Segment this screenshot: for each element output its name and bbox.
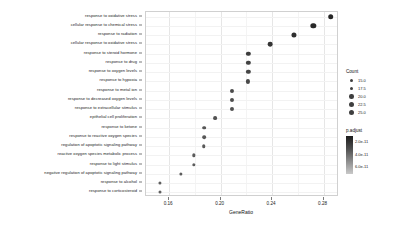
colorbar-tick-label: 6.0e-11 (355, 165, 368, 169)
y-axis-labels: response to oxidative stresscellular res… (0, 11, 142, 196)
y-axis-label: response to ketone (101, 125, 137, 129)
y-axis-label: response to alcohol (101, 180, 137, 184)
y-axis-label: response to drug (106, 60, 137, 64)
y-axis-label: response to radiation (98, 32, 137, 36)
y-axis-tick (139, 172, 142, 173)
gridline-horizontal (146, 109, 337, 110)
y-axis-tick (139, 154, 142, 155)
data-point (230, 89, 234, 93)
y-axis-tick (139, 135, 142, 136)
x-axis-tick (323, 197, 324, 200)
data-point (202, 135, 206, 139)
colorbar-gradient (346, 136, 353, 174)
gridline-horizontal (146, 44, 337, 45)
y-axis-tick (139, 34, 142, 35)
legend-count-swatch (346, 94, 357, 98)
y-axis-label: response to hypoxia (100, 78, 137, 82)
gridline-horizontal (146, 35, 337, 36)
y-axis-tick (139, 61, 142, 62)
colorbar-ticks: 2.0e-114.0e-116.0e-11 (355, 136, 385, 174)
legend-count-title: Count (346, 70, 396, 75)
legend-count-swatch (346, 79, 357, 82)
y-axis-tick (139, 145, 142, 146)
gridline-horizontal (146, 72, 337, 73)
y-axis-label: response to oxidative stress (85, 14, 137, 18)
legend-count-dot (350, 87, 354, 91)
gridline-horizontal (146, 137, 337, 138)
gridline-vertical-major (221, 12, 222, 195)
legend-count-swatch (346, 110, 357, 116)
data-point (158, 191, 161, 194)
gridline-horizontal (146, 128, 337, 129)
y-axis-tick (139, 182, 142, 183)
x-axis-tick-label: 0.16 (164, 201, 173, 206)
data-point (158, 182, 161, 185)
gridline-horizontal (146, 81, 337, 82)
gridline-vertical-major (169, 12, 170, 195)
gridline-horizontal (146, 26, 337, 27)
dotplot-figure: response to oxidative stresscellular res… (0, 0, 397, 240)
y-axis-tick (139, 163, 142, 164)
y-axis-tick (139, 15, 142, 16)
x-axis-title: GeneRatio (229, 209, 253, 215)
x-axis-tick-label: 0.24 (267, 201, 276, 206)
data-point (230, 98, 234, 102)
y-axis-tick (139, 24, 142, 25)
data-point (328, 14, 334, 20)
y-axis-tick (139, 98, 142, 99)
legend-count-dot (349, 94, 353, 98)
data-point (268, 42, 273, 47)
gridline-horizontal (146, 63, 337, 64)
legend-count-item: 25.0 (346, 109, 396, 117)
legend-padjust: p.adjust 2.0e-114.0e-116.0e-11 (346, 129, 396, 174)
y-axis-label: response to reactive oxygen species (69, 134, 137, 138)
plot-panel (145, 11, 338, 196)
legend-count-label: 25.0 (358, 111, 366, 115)
gridline-horizontal (146, 118, 337, 119)
x-axis-tick (220, 197, 221, 200)
y-axis-label: cellular response to oxidative stress (71, 41, 137, 45)
gridline-vertical-major (272, 12, 273, 195)
y-axis-label: response to steroid hormone (84, 51, 137, 55)
legend-count-item: 20.0 (346, 93, 396, 101)
gridline-horizontal (146, 146, 337, 147)
data-point (311, 23, 316, 28)
legend-count-label: 20.0 (358, 95, 366, 99)
legend-count-label: 22.5 (358, 103, 366, 107)
legend-count-dot (349, 102, 354, 107)
gridline-vertical-minor (298, 12, 299, 195)
y-axis-tick (139, 126, 142, 127)
x-axis-tick-label: 0.28 (318, 201, 327, 206)
colorbar-wrap: 2.0e-114.0e-116.0e-11 (346, 136, 396, 174)
gridline-horizontal (146, 100, 337, 101)
gridline-horizontal (146, 54, 337, 55)
gridline-horizontal (146, 174, 337, 175)
y-axis-tick (139, 117, 142, 118)
x-axis-tick (168, 197, 169, 200)
y-axis-label: regulation of apoptotic signaling pathwa… (61, 143, 137, 147)
y-axis-label: response to light stimulus (90, 162, 137, 166)
data-point (230, 107, 234, 111)
gridline-vertical-minor (246, 12, 247, 195)
gridline-horizontal (146, 165, 337, 166)
gridline-vertical-major (324, 12, 325, 195)
y-axis-tick (139, 89, 142, 90)
legend-count-swatch (346, 87, 357, 91)
x-axis-tick-label: 0.20 (215, 201, 224, 206)
y-axis-label: cellular response to chemical stress (71, 23, 137, 27)
y-axis-tick (139, 52, 142, 53)
data-point (246, 51, 250, 55)
legend-padjust-title: p.adjust (346, 129, 396, 134)
gridline-vertical-minor (195, 12, 196, 195)
data-point (179, 172, 182, 175)
data-point (246, 70, 250, 74)
legend-count-label: 17.5 (358, 87, 366, 91)
y-axis-tick (139, 71, 142, 72)
data-point (291, 33, 296, 38)
y-axis-label: response to extracellular stimulus (75, 106, 137, 110)
gridline-horizontal (146, 155, 337, 156)
x-axis-tick (271, 197, 272, 200)
legend-count-swatch (346, 102, 357, 107)
legend-count-item: 17.5 (346, 85, 396, 93)
legend-count-dot (349, 110, 355, 116)
